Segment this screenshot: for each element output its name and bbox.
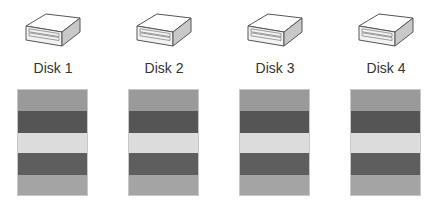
stripe-4 [240, 153, 309, 175]
stripe-3 [351, 133, 420, 153]
stripe-4 [18, 153, 87, 175]
disk-label: Disk 4 [340, 60, 432, 76]
stripe-5 [351, 175, 420, 195]
stripe-2 [240, 111, 309, 133]
disk-label: Disk 2 [118, 60, 210, 76]
stripe-3 [240, 133, 309, 153]
stripe-1 [240, 90, 309, 111]
disk-column-2: Disk 2 [128, 0, 200, 207]
stripe-3 [18, 133, 87, 153]
disk-column-3: Disk 3 [239, 0, 311, 207]
disk-column-1: Disk 1 [17, 0, 89, 207]
stripe-1 [129, 90, 198, 111]
disk-label: Disk 3 [229, 60, 321, 76]
stripe-5 [129, 175, 198, 195]
disk-label: Disk 1 [7, 60, 99, 76]
disk-column-4: Disk 4 [350, 0, 422, 207]
data-stripe-stack [128, 89, 199, 196]
stripe-2 [18, 111, 87, 133]
hard-drive-icon [135, 12, 193, 48]
stripe-2 [351, 111, 420, 133]
stripe-1 [351, 90, 420, 111]
stripe-2 [129, 111, 198, 133]
hard-drive-icon [24, 12, 82, 48]
stripe-4 [129, 153, 198, 175]
stripe-4 [351, 153, 420, 175]
stripe-1 [18, 90, 87, 111]
hard-drive-icon [246, 12, 304, 48]
data-stripe-stack [350, 89, 421, 196]
stripe-5 [240, 175, 309, 195]
data-stripe-stack [17, 89, 88, 196]
stripe-5 [18, 175, 87, 195]
stripe-3 [129, 133, 198, 153]
hard-drive-icon [357, 12, 415, 48]
data-stripe-stack [239, 89, 310, 196]
